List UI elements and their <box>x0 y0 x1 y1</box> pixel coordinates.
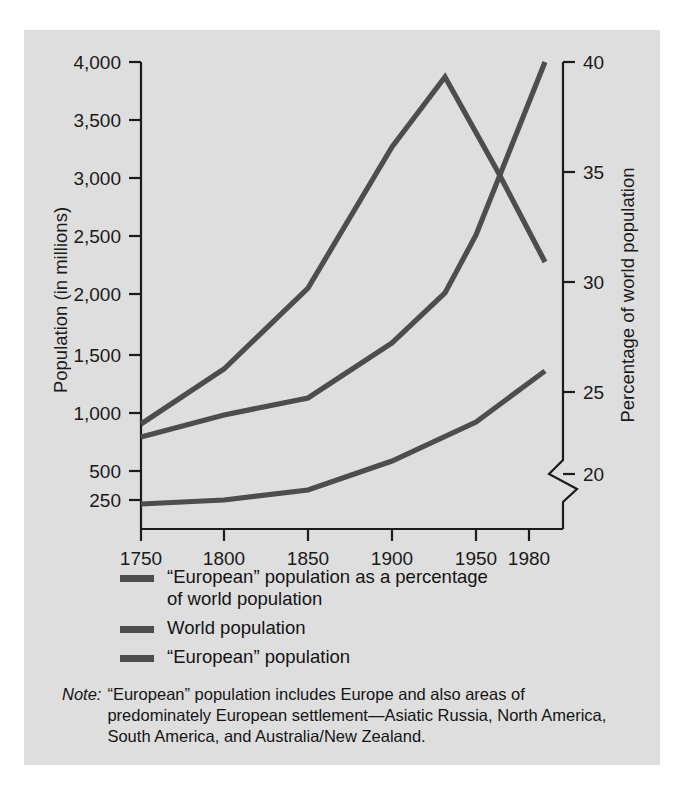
legend-item-label: World population <box>167 617 306 639</box>
left-tick-label-3000: 3,000 <box>73 168 121 189</box>
right-tick-label-25: 25 <box>583 382 604 403</box>
note-text: “European” population includes Europe an… <box>107 684 607 747</box>
legend: “European” population as a percentage of… <box>120 566 590 675</box>
left-tick-label-2500: 2,500 <box>73 226 121 247</box>
right-axis-title: Percentage of world population <box>617 167 638 422</box>
legend-item-european-population: “European” population <box>120 646 590 668</box>
left-tick-label-3500: 3,500 <box>73 110 121 131</box>
right-tick-label-20: 20 <box>583 464 604 485</box>
series-line-european-percentage <box>141 77 545 424</box>
right-tick-label-30: 30 <box>583 272 604 293</box>
left-tick-label-1500: 1,500 <box>73 345 121 366</box>
left-tick-label-2000: 2,000 <box>73 284 121 305</box>
x-axis-ticks <box>141 529 529 541</box>
right-tick-label-40: 40 <box>583 52 604 73</box>
right-axis-line-with-break <box>549 62 577 529</box>
left-tick-label-250: 250 <box>89 490 121 511</box>
legend-item-european-percentage: “European” population as a percentage of… <box>120 566 590 610</box>
right-axis-ticks <box>563 62 575 474</box>
left-tick-label-4000: 4,000 <box>73 52 121 73</box>
legend-swatch-icon <box>120 626 154 633</box>
right-tick-label-35: 35 <box>583 162 604 183</box>
legend-item-world-population: World population <box>120 617 590 639</box>
series-line-european-population <box>141 371 545 504</box>
left-tick-label-1000: 1,000 <box>73 403 121 424</box>
note-label: Note: <box>62 684 101 747</box>
legend-swatch-icon <box>120 575 154 582</box>
figure-note: Note: “European” population includes Eur… <box>62 684 607 747</box>
legend-item-label: “European” population as a percentage of… <box>167 566 488 610</box>
left-tick-label-500: 500 <box>89 461 121 482</box>
legend-item-label: “European” population <box>167 646 350 668</box>
left-axis-title: Population (in millions) <box>50 207 71 393</box>
left-axis-ticks <box>129 62 141 500</box>
legend-swatch-icon <box>120 655 154 662</box>
